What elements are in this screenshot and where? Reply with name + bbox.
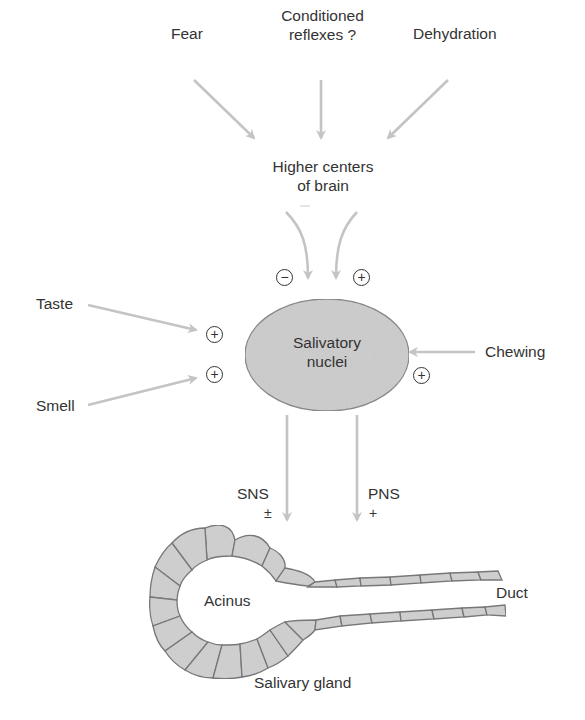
brain-arrows [286,206,357,278]
nucleus-line1: Salivatory [277,333,377,352]
taste-sign: + [206,326,223,343]
duct-label: Duct [496,583,528,602]
taste-label: Taste [36,294,73,313]
brain-inhibitory-arrow [286,212,308,278]
output-arrows [287,415,357,520]
nucleus-line2: nuclei [277,352,377,371]
higher-centers-line2: of brain [258,176,388,195]
smell-label: Smell [36,396,75,415]
sns-label: SNS [237,484,269,503]
higher-centers-label: Higher centers of brain [258,157,388,195]
fear-arrow [194,80,254,138]
pns-label: PNS [368,484,400,503]
chewing-sign: + [413,367,430,384]
smell-arrow [88,378,196,405]
brain-excitatory-sign: + [353,269,370,286]
pns-sign: + [369,505,377,521]
salivatory-nuclei-label: Salivatory nuclei [277,333,377,371]
salivary-gland-caption: Salivary gland [254,673,351,692]
chewing-label: Chewing [485,342,545,361]
dehydration-label: Dehydration [413,24,497,43]
smell-sign: + [206,366,223,383]
conditioned-line1: Conditioned [275,6,370,25]
dehydration-arrow [388,80,448,138]
acinus-label: Acinus [204,591,251,610]
input-arrows-top [194,80,448,138]
conditioned-line2: reflexes ? [275,25,370,44]
inhibitory-sign: − [276,269,293,286]
brain-excitatory-arrow [336,212,357,278]
fear-label: Fear [171,24,203,43]
higher-centers-line1: Higher centers [258,157,388,176]
conditioned-label: Conditioned reflexes ? [275,6,370,44]
taste-arrow [88,305,196,330]
sns-sign: ± [264,505,272,521]
